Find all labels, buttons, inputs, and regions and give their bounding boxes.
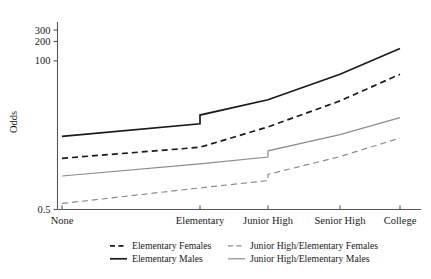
series-line [62,118,400,176]
x-axis-category-labels: NoneElementaryJunior HighSenior HighColl… [51,215,417,226]
chart-legend: Elementary FemalesJunior High/Elementary… [110,240,378,264]
y-tick-label: 100 [35,55,51,66]
series-line [62,138,400,203]
y-tick-label: 200 [35,36,51,47]
x-category-label: Elementary [176,215,225,226]
x-category-label: Senior High [314,215,366,226]
x-category-label: None [51,215,74,226]
series-line [62,49,400,137]
y-axis-ticks [54,30,58,209]
plot-area: 3002001000.5 NoneElementaryJunior HighSe… [0,0,431,279]
legend-label: Elementary Males [132,253,203,264]
legend-label: Junior High/Elementary Males [250,253,370,264]
x-axis-ticks [62,206,400,210]
y-tick-label: 300 [35,25,51,36]
series-line [62,74,400,158]
y-axis-title: Odds [8,111,19,133]
x-category-label: Junior High [243,215,294,226]
series-lines [62,49,400,204]
legend-label: Junior High/Elementary Females [250,240,378,251]
x-category-label: College [384,215,417,226]
legend-label: Elementary Females [132,240,212,251]
y-axis-tick-labels: 3002001000.5 [35,25,51,215]
y-tick-label: 0.5 [37,204,50,215]
odds-line-chart: 3002001000.5 NoneElementaryJunior HighSe… [0,0,431,279]
